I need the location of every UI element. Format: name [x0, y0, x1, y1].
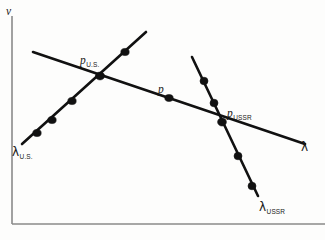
data-point — [210, 99, 218, 107]
label-lambda-us-subscript: U.S. — [20, 153, 33, 160]
data-point — [200, 77, 208, 85]
label-lambda-ussr-subscript: USSR — [267, 208, 285, 215]
x-axis-label-text: λ — [301, 140, 308, 154]
y-axis-label-text: v — [6, 5, 11, 17]
label-lambda-ussr-symbol: λ — [259, 200, 266, 214]
label-p-ussr-subscript: USSR — [233, 114, 251, 121]
data-point — [234, 152, 242, 160]
label-p-us-symbol: p — [80, 54, 86, 66]
data-point — [165, 95, 173, 102]
label-p: p — [158, 80, 164, 96]
figure-container: v pU.S. p pUSSR λU.S. λ λUSSR — [0, 0, 325, 240]
x-axis-label: λ — [301, 138, 308, 154]
label-lambda-ussr: λUSSR — [259, 198, 285, 214]
data-point — [68, 97, 76, 104]
label-p-ussr-symbol: p — [227, 107, 233, 119]
data-point — [121, 48, 129, 55]
label-p-us: pU.S. — [80, 51, 99, 67]
label-p-ussr: pUSSR — [227, 104, 251, 120]
data-point — [248, 182, 256, 190]
data-point — [48, 116, 56, 123]
series-lambda-us — [22, 32, 146, 144]
label-p-symbol: p — [158, 83, 164, 95]
axes-group — [12, 16, 325, 224]
data-point-intersection-ussr — [218, 118, 227, 126]
data-point — [33, 129, 41, 136]
label-lambda-us: λU.S. — [12, 143, 32, 159]
y-axis-label: v — [6, 2, 11, 18]
label-lambda-us-symbol: λ — [12, 145, 19, 159]
data-point-intersection-us — [95, 72, 104, 80]
label-p-us-subscript: U.S. — [86, 61, 99, 68]
series-lambda-ussr — [192, 57, 258, 196]
